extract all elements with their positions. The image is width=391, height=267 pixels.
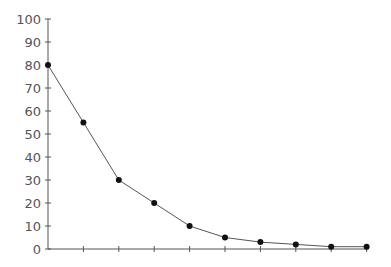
y-tick-label: 20 <box>24 196 41 211</box>
data-point-marker <box>80 120 86 126</box>
data-point-marker <box>293 241 299 247</box>
y-tick-label: 80 <box>24 58 41 73</box>
data-point-marker <box>187 223 193 229</box>
data-point-marker <box>151 200 157 206</box>
y-tick-label: 60 <box>24 104 41 119</box>
line-chart: 0102030405060708090100 <box>0 0 391 267</box>
y-tick-label: 30 <box>24 173 41 188</box>
y-tick-label: 50 <box>24 127 41 142</box>
data-series <box>45 62 370 250</box>
y-axis: 0102030405060708090100 <box>16 12 51 257</box>
y-tick-label: 0 <box>33 242 41 257</box>
series-line <box>48 65 367 247</box>
data-point-marker <box>222 235 228 241</box>
y-tick-label: 90 <box>24 35 41 50</box>
y-tick-label: 10 <box>24 219 41 234</box>
y-tick-label: 40 <box>24 150 41 165</box>
data-point-marker <box>45 62 51 68</box>
data-point-marker <box>116 177 122 183</box>
data-point-marker <box>364 244 370 250</box>
data-point-marker <box>328 244 334 250</box>
data-point-marker <box>257 239 263 245</box>
x-axis <box>48 246 369 252</box>
y-tick-label: 100 <box>16 12 41 27</box>
y-tick-label: 70 <box>24 81 41 96</box>
